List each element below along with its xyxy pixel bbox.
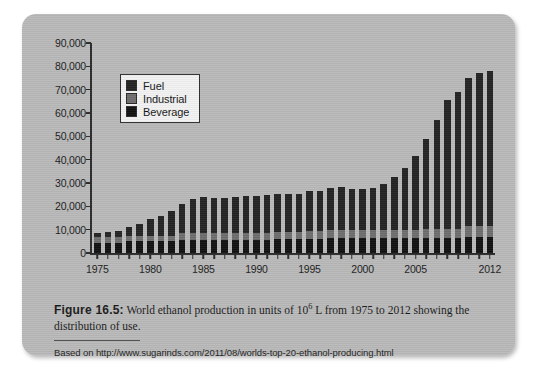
bar-segment-beverage [402, 238, 409, 253]
bar-group [378, 43, 389, 253]
stacked-bar [136, 224, 143, 253]
bar-segment-industrial [423, 229, 430, 238]
x-axis-tick-mark [447, 254, 449, 259]
x-axis-tick-mark [394, 254, 396, 259]
x-axis-tick-mark [234, 254, 236, 259]
y-axis-tick-mark [86, 182, 91, 184]
bar-segment-industrial [402, 230, 409, 238]
bar-group: 1975 [92, 43, 103, 253]
bar-segment-industrial [434, 229, 441, 238]
bar-segment-beverage [253, 240, 260, 253]
stacked-bar [391, 177, 398, 253]
x-axis-tick-mark [415, 254, 417, 259]
bar-group [262, 43, 273, 253]
x-axis-tick-mark [457, 254, 459, 259]
bar-segment-beverage [370, 238, 377, 253]
bar-segment-industrial [179, 233, 186, 240]
bar-segment-beverage [423, 238, 430, 253]
bar-segment-industrial [391, 230, 398, 238]
bar-segment-industrial [264, 233, 271, 240]
x-axis-tick-mark [383, 254, 385, 259]
bar-segment-beverage [444, 238, 451, 253]
source-divider [54, 340, 140, 341]
bar-group [400, 43, 411, 253]
figure-panel: 90,00080,00070,00060,00050,00040,00030,0… [22, 14, 515, 355]
bar-segment-beverage [105, 243, 112, 254]
bar-segment-fuel [232, 197, 239, 233]
y-axis-tick-label: 30,000 [55, 177, 86, 189]
bar-segment-fuel [274, 194, 281, 233]
bar-segment-industrial [412, 230, 419, 238]
bar-segment-beverage [476, 237, 483, 253]
y-axis-tick-label: 90,000 [55, 37, 86, 49]
bar-segment-fuel [306, 191, 313, 231]
bar-segment-fuel [359, 189, 366, 230]
bar-segment-fuel [168, 211, 175, 236]
x-axis-tick-label: 1990 [245, 263, 268, 275]
bar-segment-beverage [200, 240, 207, 253]
bar-segment-beverage [136, 241, 143, 253]
y-axis-tick-mark [86, 42, 91, 44]
bar-segment-beverage [391, 238, 398, 253]
bar-segment-beverage [211, 240, 218, 253]
stacked-bar [158, 216, 165, 253]
x-axis-tick-mark [160, 254, 162, 259]
bar-segment-fuel [264, 195, 271, 234]
bar-group: 2005 [410, 43, 421, 253]
x-axis-tick-mark [150, 254, 152, 259]
bar-group [336, 43, 347, 253]
y-axis-tick-mark [86, 252, 91, 254]
x-axis-tick-mark [192, 254, 194, 259]
bar-segment-beverage [434, 238, 441, 253]
legend-item-industrial: Industrial [126, 92, 189, 105]
legend-item-beverage: Beverage [126, 105, 189, 118]
bar-segment-industrial [317, 231, 324, 239]
x-axis-tick-mark [213, 254, 215, 259]
x-axis-tick-mark [288, 254, 290, 259]
stacked-bar [412, 156, 419, 253]
x-axis-tick-mark [224, 254, 226, 259]
x-axis-tick-mark [425, 254, 427, 259]
y-axis-tick-label: 40,000 [55, 154, 86, 166]
x-axis-tick-mark [118, 254, 120, 259]
stacked-bar [434, 120, 441, 253]
bar-segment-beverage [232, 240, 239, 253]
bar-segment-industrial [476, 226, 483, 237]
legend-swatch-beverage [126, 106, 137, 117]
stacked-bar [253, 196, 260, 253]
chart-legend: FuelIndustrialBeverage [120, 74, 200, 123]
stacked-bar [327, 188, 334, 253]
legend-item-fuel: Fuel [126, 79, 189, 92]
x-axis-tick-mark [277, 254, 279, 259]
bar-group [463, 43, 474, 253]
x-axis-tick-mark [203, 254, 205, 259]
bar-group: 1995 [304, 43, 315, 253]
stacked-bar [264, 195, 271, 253]
stacked-bar [359, 189, 366, 253]
legend-label-beverage: Beverage [143, 106, 189, 118]
stacked-bar [105, 232, 112, 253]
x-axis-tick-label: 2000 [351, 263, 374, 275]
bar-segment-beverage [243, 240, 250, 253]
stacked-bar [221, 198, 228, 253]
bar-segment-industrial [380, 230, 387, 238]
bar-segment-industrial [274, 232, 281, 239]
bar-group [432, 43, 443, 253]
stacked-bar [423, 139, 430, 253]
stacked-bar [190, 199, 197, 253]
y-axis-tick-mark [86, 159, 91, 161]
bar-segment-beverage [306, 239, 313, 253]
x-axis-tick-mark [330, 254, 332, 259]
bar-segment-fuel [221, 198, 228, 233]
x-axis-tick-mark [362, 254, 364, 259]
bar-segment-industrial [221, 233, 228, 240]
bar-group [347, 43, 358, 253]
x-axis-tick-label: 1980 [139, 263, 162, 275]
bar-group [368, 43, 379, 253]
bar-group [219, 43, 230, 253]
y-axis-tick-mark [86, 206, 91, 208]
bar-segment-industrial [349, 230, 356, 238]
bar-segment-fuel [349, 189, 356, 230]
stacked-bar [285, 194, 292, 254]
bar-segment-fuel [190, 199, 197, 233]
